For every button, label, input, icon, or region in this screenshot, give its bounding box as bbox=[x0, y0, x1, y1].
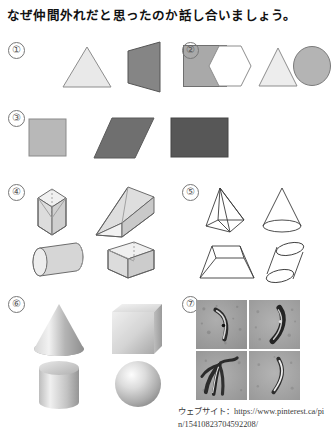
photo-top-left bbox=[196, 300, 247, 349]
group-4-cube bbox=[28, 186, 74, 242]
group-5-square-pyramid bbox=[200, 186, 252, 238]
group-7-photo-grid bbox=[196, 300, 300, 400]
photo-bottom-left bbox=[196, 351, 247, 400]
group-marker-2: ② bbox=[182, 42, 199, 59]
group-marker-1: ① bbox=[8, 42, 25, 59]
worksheet-page: なぜ仲間外れだと思ったのか話し合いましょう。 ① ② ③ bbox=[0, 0, 333, 447]
photo-bottom-right bbox=[249, 351, 300, 400]
page-title: なぜ仲間外れだと思ったのか話し合いましょう。 bbox=[7, 5, 327, 24]
group-3-square bbox=[28, 118, 68, 158]
group-marker-4: ④ bbox=[8, 184, 25, 201]
group-6-sphere bbox=[112, 358, 164, 410]
group-4-triangular-prism bbox=[88, 185, 158, 243]
group-5-truncated-pyramid-frustum bbox=[196, 240, 258, 286]
group-2-circle bbox=[292, 44, 333, 88]
group-3-parallelogram bbox=[92, 116, 156, 160]
group-1-triangle bbox=[60, 44, 114, 90]
source-url: ウェブサイト：https://www.pinterest.ca/pin/1541… bbox=[178, 405, 330, 431]
group-4-cylinder bbox=[24, 240, 88, 284]
group-marker-6: ⑥ bbox=[8, 296, 25, 313]
group-5-oblique-cylinder bbox=[258, 238, 314, 288]
group-6-cylinder bbox=[34, 358, 86, 410]
group-6-cone bbox=[26, 302, 92, 358]
group-3-rectangle bbox=[170, 117, 230, 159]
group-marker-3: ③ bbox=[8, 110, 25, 127]
group-5-cone bbox=[256, 186, 308, 238]
photo-top-right bbox=[249, 300, 300, 349]
group-4-rectangular-box bbox=[92, 240, 160, 284]
group-marker-5: ⑤ bbox=[182, 184, 199, 201]
group-1-perspective-quadrilateral bbox=[124, 41, 164, 93]
group-2-hexagon bbox=[207, 44, 253, 88]
group-6-cube bbox=[108, 300, 166, 358]
